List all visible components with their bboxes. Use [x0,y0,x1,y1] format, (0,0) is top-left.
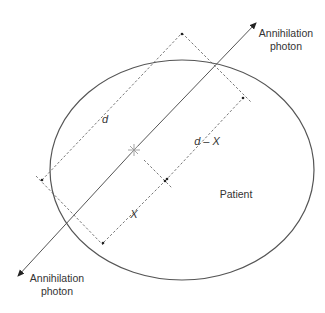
patient-body-outline [50,60,314,280]
label-patient: Patient [220,188,253,200]
label-d: d [102,113,109,125]
pet-attenuation-diagram: Annihilation photon Annihilation photon … [0,0,325,313]
label-photon-top-line2: photon [270,40,302,52]
label-photon-bottom: Annihilation [30,272,84,284]
photon-path-line [134,23,256,150]
label-photon-top: Annihilation [259,27,313,39]
photon-path-line-lower [18,150,134,276]
label-x: X [129,208,138,220]
label-photon-bottom-line2: photon [41,285,73,297]
label-d-minus-x: d – X [194,135,220,147]
